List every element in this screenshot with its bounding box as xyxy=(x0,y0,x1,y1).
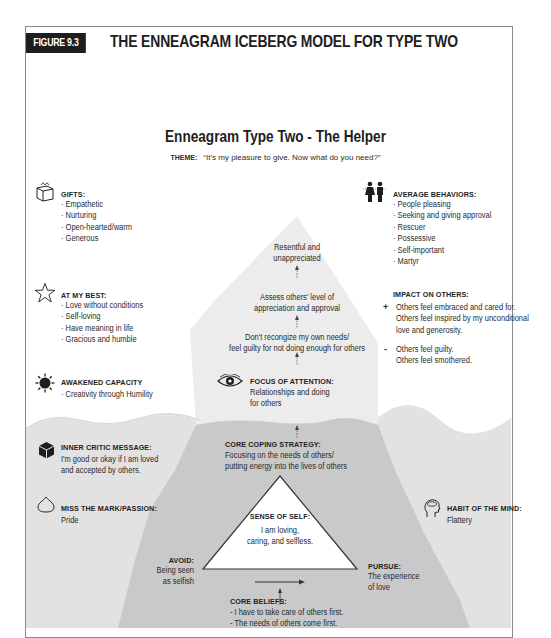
impact-positive-line: love and generosity. xyxy=(396,325,529,336)
step-line: Resentful and xyxy=(234,242,360,253)
theme-line: THEME:“It’s my pleasure to give. Now wha… xyxy=(0,153,551,162)
coping-heading: CORE COPING STRATEGY: xyxy=(225,440,361,449)
at-my-best-item: Have meaning in life xyxy=(61,323,143,334)
gift-item: Empathetic xyxy=(61,199,132,210)
inner-critic-line: I'm good or okay if I am loved xyxy=(61,454,158,465)
sense-of-self-heading: SENSE OF SELF: xyxy=(230,512,330,521)
impact-positive-line: Others feel inspired by my unconditional xyxy=(396,313,529,324)
sense-of-self-line: caring, and selfless. xyxy=(235,536,325,547)
figure-number-badge: FIGURE 9.3 xyxy=(26,33,86,53)
at-my-best-section: AT MY BEST: Love without conditions Self… xyxy=(61,291,152,346)
impact-negative: Others feel guilty. Others feel smothere… xyxy=(396,344,480,367)
gift-icon xyxy=(34,180,56,202)
impact-positive: Others feel embraced and cared for. Othe… xyxy=(396,302,544,336)
couple-icon xyxy=(363,181,387,203)
coping-line: Focusing on the needs of others/ xyxy=(225,450,347,461)
at-my-best-item: Love without conditions xyxy=(61,300,143,311)
step-line: unappreciated xyxy=(234,253,360,264)
habit-value: Flattery xyxy=(447,515,514,526)
habit-heading: HABIT OF THE MIND: xyxy=(447,504,522,513)
at-my-best-heading: AT MY BEST: xyxy=(61,291,152,300)
sense-of-self-line: I am loving, xyxy=(235,525,325,536)
figure-title: THE ENNEAGRAM ICEBERG MODEL FOR TYPE TWO xyxy=(110,32,458,52)
step-line: appreciation and approval xyxy=(225,303,369,314)
pursue-section: PURSUE: The experience of love xyxy=(368,562,425,594)
core-beliefs-section: CORE BELIEFS: - I have to take care of o… xyxy=(230,597,356,630)
gifts-section: GIFTS: Empathetic Nurturing Open-hearted… xyxy=(61,190,140,245)
behavior-item: Possessive xyxy=(393,233,491,244)
coping-line: putting energy into the lives of others xyxy=(225,461,347,472)
behavior-item: People pleasing xyxy=(393,199,491,210)
average-behaviors-section: AVERAGE BEHAVIORS: People pleasing Seeki… xyxy=(393,190,502,267)
pursue-line: of love xyxy=(368,582,419,593)
awakened-capacity-item: Creativity through Humility xyxy=(61,389,153,400)
step-line: Don't recongize my own needs/ xyxy=(207,332,387,343)
theme-label: THEME: xyxy=(170,154,197,161)
focus-line: Relationships and doing xyxy=(250,387,330,398)
avoid-section: AVOID: Being seen as selfish xyxy=(150,556,194,588)
step-dont-recognize: Don't recongize my own needs/ feel guilt… xyxy=(197,332,397,355)
step-line: Assess others' level of xyxy=(225,292,369,303)
passion-heading: MISS THE MARK/PASSION: xyxy=(61,504,157,513)
core-belief-item: - I have to take care of others first. xyxy=(230,607,343,618)
pursue-line: The experience xyxy=(368,571,419,582)
passion-section: MISS THE MARK/PASSION: Pride xyxy=(61,504,157,526)
avoid-line: as selfish xyxy=(154,576,194,587)
behavior-item: Rescuer xyxy=(393,222,491,233)
inner-critic-heading: INNER CRITIC MESSAGE: xyxy=(61,443,169,452)
gift-item: Open-hearted/warm xyxy=(61,222,132,233)
focus-line: for others xyxy=(250,398,330,409)
behavior-item: Self-important xyxy=(393,245,491,256)
focus-heading: FOCUS OF ATTENTION: xyxy=(250,377,339,386)
star-icon xyxy=(34,282,56,304)
habit-section: HABIT OF THE MIND: Flattery xyxy=(447,504,522,526)
theme-text: “It’s my pleasure to give. Now what do y… xyxy=(203,153,380,162)
inner-critic-section: INNER CRITIC MESSAGE: I'm good or okay i… xyxy=(61,443,169,477)
gifts-heading: GIFTS: xyxy=(61,190,140,199)
pursue-heading: PURSUE: xyxy=(368,562,425,571)
behavior-item: Seeking and giving approval xyxy=(393,210,491,221)
coping-section: CORE COPING STRATEGY: Focusing on the ne… xyxy=(225,440,361,473)
impact-negative-line: Others feel smothered. xyxy=(396,355,472,366)
passion-value: Pride xyxy=(61,515,147,526)
behavior-item: Martyr xyxy=(393,256,491,267)
awakened-capacity-section: AWAKENED CAPACITY Creativity through Hum… xyxy=(61,378,163,400)
at-my-best-item: Gracious and humble xyxy=(61,334,143,345)
heart-outline-icon xyxy=(36,495,56,513)
average-behaviors-heading: AVERAGE BEHAVIORS: xyxy=(393,190,502,199)
impact-negative-line: Others feel guilty. xyxy=(396,344,472,355)
avoid-line: Being seen xyxy=(154,565,194,576)
step-line: feel guilty for not doing enough for oth… xyxy=(207,343,387,354)
core-belief-item: - The needs of others come first. xyxy=(230,618,343,629)
step-assess: Assess others' level of appreciation and… xyxy=(217,292,377,315)
avoid-heading: AVOID: xyxy=(150,556,194,565)
head-icon xyxy=(423,498,441,518)
impact-positive-line: Others feel embraced and cared for. xyxy=(396,302,529,313)
diagram-title: Enneagram Type Two - The Helper xyxy=(41,128,509,146)
inner-critic-line: and accepted by others. xyxy=(61,465,158,476)
at-my-best-item: Self-loving xyxy=(61,311,143,322)
cube-icon xyxy=(38,441,55,459)
focus-section: FOCUS OF ATTENTION: Relationships and do… xyxy=(250,377,339,410)
awakened-capacity-heading: AWAKENED CAPACITY xyxy=(61,378,163,387)
impact-section: IMPACT ON OTHERS: xyxy=(393,290,469,299)
sense-of-self-section: SENSE OF SELF: I am loving, caring, and … xyxy=(230,512,330,548)
positive-sign: + xyxy=(383,302,388,312)
step-resentful: Resentful and unappreciated xyxy=(227,242,367,265)
impact-heading: IMPACT ON OTHERS: xyxy=(393,290,469,299)
gift-item: Nurturing xyxy=(61,210,132,221)
eye-icon xyxy=(217,374,243,388)
sun-icon xyxy=(35,373,55,393)
gift-item: Generous xyxy=(61,233,132,244)
core-beliefs-heading: CORE BELIEFS: xyxy=(230,597,356,606)
